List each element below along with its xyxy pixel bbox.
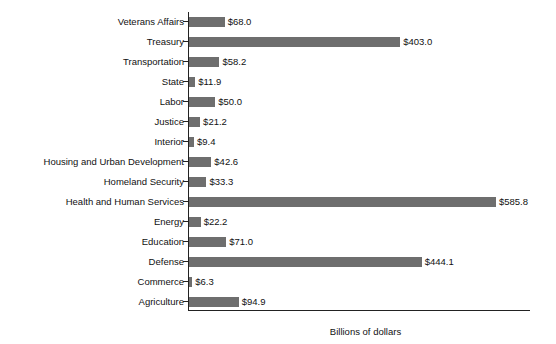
axis-tick	[183, 61, 188, 62]
bar-row: Interior$9.4	[0, 132, 556, 152]
category-label: Agriculture	[139, 292, 184, 312]
bar-value-label: $68.0	[228, 12, 252, 32]
plot-area: Veterans Affairs$68.0Treasury$403.0Trans…	[0, 0, 556, 344]
category-label: Energy	[154, 212, 184, 232]
axis-tick	[183, 141, 188, 142]
bar-row: Justice$21.2	[0, 112, 556, 132]
bar	[189, 217, 201, 227]
axis-tick	[183, 261, 188, 262]
bar-row: Health and Human Services$585.8	[0, 192, 556, 212]
bar-row: Commerce$6.3	[0, 272, 556, 292]
bar-value-label: $585.8	[499, 192, 528, 212]
bar-row: State$11.9	[0, 72, 556, 92]
axis-tick	[183, 21, 188, 22]
bar-value-label: $9.4	[197, 132, 216, 152]
axis-tick	[183, 161, 188, 162]
axis-tick	[183, 101, 188, 102]
bar	[189, 37, 400, 47]
bar-row: Treasury$403.0	[0, 32, 556, 52]
bar	[189, 177, 206, 187]
bar-row: Energy$22.2	[0, 212, 556, 232]
axis-tick	[183, 221, 188, 222]
bar-value-label: $50.0	[218, 92, 242, 112]
bar-value-label: $21.2	[203, 112, 227, 132]
bar-row: Veterans Affairs$68.0	[0, 12, 556, 32]
category-label: State	[162, 72, 184, 92]
bar-value-label: $58.2	[222, 52, 246, 72]
bar	[189, 77, 195, 87]
category-label: Interior	[154, 132, 184, 152]
bar-row: Defense$444.1	[0, 252, 556, 272]
category-label: Treasury	[147, 32, 184, 52]
category-label: Health and Human Services	[66, 192, 184, 212]
category-label: Veterans Affairs	[118, 12, 184, 32]
bar	[189, 257, 422, 267]
bar	[189, 157, 211, 167]
axis-tick	[183, 81, 188, 82]
bar-value-label: $42.6	[214, 152, 238, 172]
bar-value-label: $22.2	[204, 212, 228, 232]
axis-tick	[183, 181, 188, 182]
bar	[189, 57, 219, 67]
category-label: Commerce	[138, 272, 184, 292]
bar	[189, 117, 200, 127]
axis-tick	[183, 41, 188, 42]
bar-value-label: $11.9	[198, 72, 221, 92]
bar-value-label: $6.3	[195, 272, 214, 292]
axis-tick	[183, 121, 188, 122]
bar-value-label: $444.1	[425, 252, 454, 272]
axis-tick	[183, 301, 188, 302]
x-axis-title-label: Billions of dollars	[330, 326, 401, 337]
bar	[189, 197, 496, 207]
bar	[189, 277, 192, 287]
category-label: Defense	[149, 252, 184, 272]
bar-row: Homeland Security$33.3	[0, 172, 556, 192]
category-label: Housing and Urban Development	[44, 152, 184, 172]
bar-row: Agriculture$94.9	[0, 292, 556, 312]
category-label: Justice	[154, 112, 184, 132]
bar-row: Housing and Urban Development$42.6	[0, 152, 556, 172]
bar	[189, 97, 215, 107]
bar-row: Labor$50.0	[0, 92, 556, 112]
axis-tick	[183, 241, 188, 242]
bar-chart: Veterans Affairs$68.0Treasury$403.0Trans…	[0, 0, 556, 344]
bar-value-label: $94.9	[242, 292, 266, 312]
axis-tick	[183, 281, 188, 282]
axis-tick	[183, 201, 188, 202]
bar	[189, 237, 226, 247]
bar	[189, 17, 225, 27]
bar-row: Transportation$58.2	[0, 52, 556, 72]
category-label: Homeland Security	[104, 172, 184, 192]
bar-value-label: $71.0	[229, 232, 253, 252]
category-label: Transportation	[123, 52, 184, 72]
bar-row: Education$71.0	[0, 232, 556, 252]
category-label: Education	[142, 232, 184, 252]
bar-value-label: $33.3	[209, 172, 233, 192]
x-axis-title: Billions of dollars	[0, 326, 556, 337]
category-label: Labor	[160, 92, 184, 112]
bar	[189, 137, 194, 147]
bar	[189, 297, 239, 307]
bar-value-label: $403.0	[403, 32, 432, 52]
